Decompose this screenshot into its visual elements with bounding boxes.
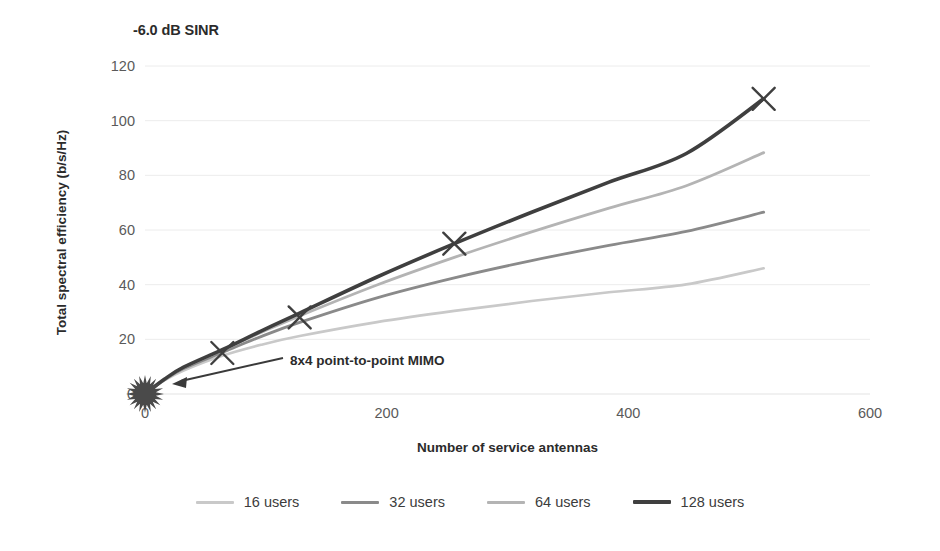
legend-item[interactable]: 64 users	[487, 495, 591, 510]
legend-swatch	[633, 500, 671, 504]
legend-item-label: 64 users	[535, 495, 591, 510]
annotation-label: 8x4 point-to-point MIMO	[290, 353, 444, 368]
legend-item-label: 32 users	[389, 495, 445, 510]
series-lines	[145, 99, 764, 394]
legend-item[interactable]: 128 users	[633, 495, 745, 510]
plot-canvas	[0, 0, 940, 551]
gridlines	[145, 66, 870, 394]
chart-figure: -6.0 dB SINR Total spectral efficiency (…	[0, 0, 940, 551]
chart-legend: 16 users32 users64 users128 users	[0, 495, 940, 510]
legend-swatch	[487, 501, 525, 504]
legend-item-label: 16 users	[244, 495, 300, 510]
legend-item[interactable]: 32 users	[341, 495, 445, 510]
starburst-marker-icon	[126, 375, 164, 413]
annotation-arrow	[172, 358, 283, 388]
legend-swatch	[196, 501, 234, 504]
legend-swatch	[341, 501, 379, 505]
legend-item-label: 128 users	[681, 495, 745, 510]
legend-item[interactable]: 16 users	[196, 495, 300, 510]
